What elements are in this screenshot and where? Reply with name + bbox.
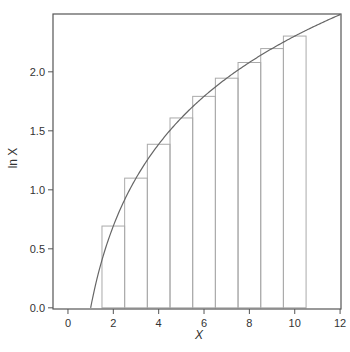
- bar-rect: [147, 144, 170, 308]
- x-axis-label: X: [194, 328, 204, 342]
- plot-frame: [53, 14, 341, 309]
- x-tick-label: 2: [110, 317, 116, 329]
- x-tick-label: 8: [246, 317, 252, 329]
- bar-series: [102, 36, 306, 308]
- x-axis-ticks: 024681012: [65, 309, 346, 329]
- bar-rect: [125, 178, 148, 308]
- bar-rect: [193, 96, 216, 307]
- y-tick-label: 1.5: [30, 125, 45, 137]
- x-tick-label: 12: [334, 317, 346, 329]
- bar-rect: [283, 36, 306, 308]
- bar-rect: [170, 118, 193, 308]
- y-axis-ticks: 0.00.51.01.52.0: [30, 66, 53, 314]
- y-tick-label: 0.5: [30, 243, 45, 255]
- y-tick-label: 1.0: [30, 184, 45, 196]
- bar-rect: [102, 226, 125, 308]
- bar-rect: [261, 49, 284, 308]
- y-tick-label: 2.0: [30, 66, 45, 78]
- bar-rect: [238, 62, 261, 307]
- y-axis-label: ln X: [6, 148, 20, 169]
- y-tick-label: 0.0: [30, 302, 45, 314]
- chart: 024681012 0.00.51.01.52.0 X ln X: [0, 0, 350, 352]
- bar-rect: [215, 78, 238, 308]
- x-tick-label: 10: [289, 317, 301, 329]
- x-tick-label: 0: [65, 317, 71, 329]
- x-tick-label: 4: [156, 317, 162, 329]
